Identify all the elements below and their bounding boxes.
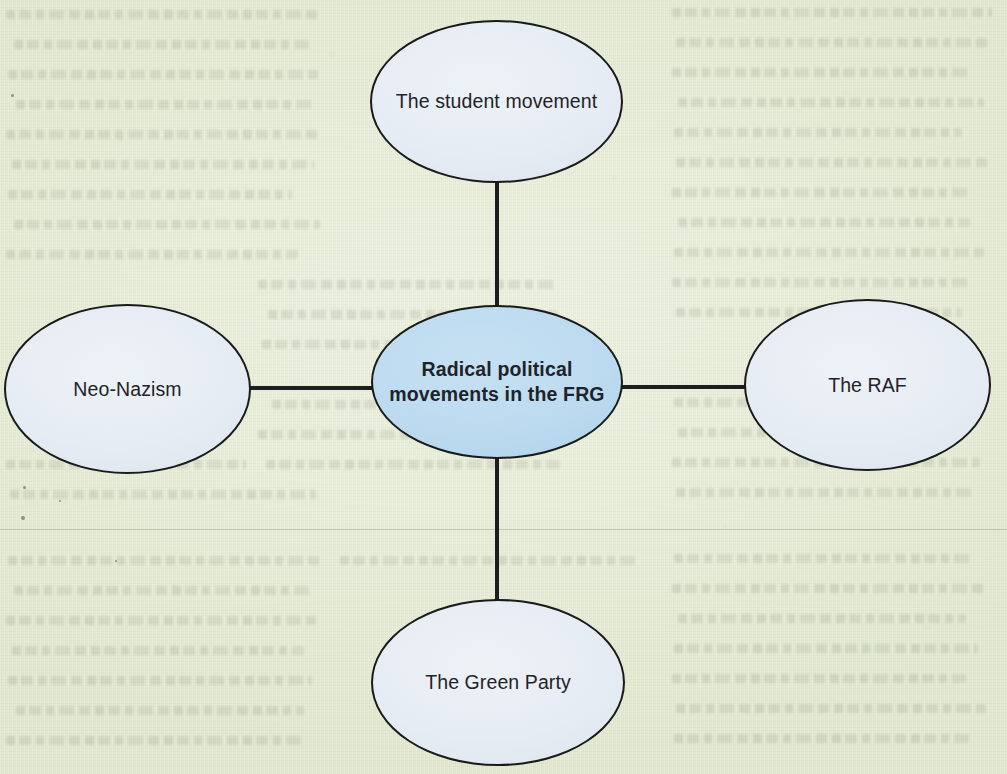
node-raf[interactable]: The RAF xyxy=(744,299,991,471)
node-green-party-label: The Green Party xyxy=(411,670,585,695)
node-student-movement[interactable]: The student movement xyxy=(370,20,623,183)
node-neo-nazism[interactable]: Neo-Nazism xyxy=(4,304,251,474)
mind-map-diagram: The student movement Neo-Nazism The RAF … xyxy=(0,0,1007,774)
node-central-topic-label: Radical political movements in the FRG xyxy=(373,357,621,407)
scanned-page: The student movement Neo-Nazism The RAF … xyxy=(0,0,1007,774)
node-neo-nazism-label: Neo-Nazism xyxy=(59,377,195,402)
node-green-party[interactable]: The Green Party xyxy=(371,599,625,766)
node-raf-label: The RAF xyxy=(814,373,921,398)
connector-center-to-neo-nazism xyxy=(249,386,374,390)
connector-center-to-raf xyxy=(620,385,747,389)
connector-center-to-student-movement xyxy=(495,181,499,307)
node-central-topic[interactable]: Radical political movements in the FRG xyxy=(371,305,623,459)
connector-center-to-green-party xyxy=(495,457,499,601)
node-student-movement-label: The student movement xyxy=(382,89,611,114)
